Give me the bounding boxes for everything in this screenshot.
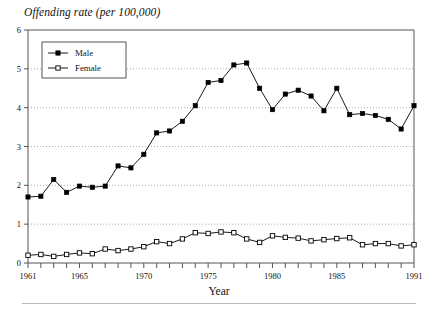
data-point-male-1965 [77,184,81,188]
data-point-female-1962 [39,252,43,256]
gridlines-group [28,69,414,224]
data-point-male-1976 [219,78,223,82]
x-axis-tick-labels: 1961196519701975198019851991 [20,271,423,281]
data-point-female-1977 [232,231,236,235]
footer-divider [22,303,416,304]
legend-marker-female [56,66,60,70]
data-point-male-1977 [232,63,236,67]
data-point-female-1990 [399,244,403,248]
data-point-female-1986 [347,236,351,240]
data-point-male-1982 [296,88,300,92]
data-point-male-1984 [322,109,326,113]
series-female [26,230,416,259]
data-point-female-1982 [296,236,300,240]
data-point-female-1988 [373,241,377,245]
data-point-male-1969 [129,166,133,170]
data-point-male-1973 [180,119,184,123]
x-tick-label-1980: 1980 [264,271,281,281]
data-point-male-1979 [258,86,262,90]
data-point-female-1971 [154,239,158,243]
series-line-female [28,232,414,256]
y-tick-label-0: 0 [17,258,21,268]
data-point-female-1984 [322,238,326,242]
x-axis-ticks [28,263,414,268]
x-tick-label-1965: 1965 [71,271,88,281]
data-point-female-1966 [90,251,94,255]
y-axis-tick-labels: 0123456 [17,25,22,268]
data-point-female-1973 [180,237,184,241]
data-point-female-1979 [257,240,261,244]
line-chart-plot-area: 0123456 1961196519701975198019851991 Mal… [0,0,438,300]
x-axis-title: Year [0,285,438,297]
data-point-female-1968 [116,248,120,252]
data-point-female-1965 [77,251,81,255]
data-point-female-1985 [335,236,339,240]
data-point-male-1962 [39,194,43,198]
data-point-male-1988 [373,113,377,117]
x-tick-label-1991: 1991 [406,271,423,281]
data-point-female-1978 [245,237,249,241]
data-point-male-1971 [155,131,159,135]
data-series-layer [26,61,416,259]
data-point-female-1987 [360,243,364,247]
data-point-female-1991 [412,243,416,247]
legend-marker-male [56,51,60,55]
chart-legend: MaleFemale [42,42,126,78]
data-point-male-1961 [26,195,30,199]
data-point-female-1964 [64,252,68,256]
chart-figure: Offending rate (per 100,000) 0123456 196… [0,0,438,312]
data-point-male-1991 [412,104,416,108]
data-point-female-1989 [386,241,390,245]
data-point-male-1974 [193,104,197,108]
data-point-male-1964 [65,190,69,194]
data-point-male-1970 [142,152,146,156]
data-point-male-1963 [52,177,56,181]
data-point-female-1961 [26,253,30,257]
y-tick-label-5: 5 [17,64,21,74]
legend-label-male: Male [75,48,93,58]
x-tick-label-1961: 1961 [20,271,37,281]
data-point-male-1981 [283,92,287,96]
data-point-male-1972 [167,129,171,133]
y-axis-ticks [24,30,28,263]
data-point-male-1967 [103,184,107,188]
y-tick-label-1: 1 [17,219,21,229]
data-point-female-1972 [167,241,171,245]
data-point-female-1970 [142,244,146,248]
data-point-male-1980 [270,108,274,112]
x-tick-label-1970: 1970 [135,271,152,281]
data-point-male-1968 [116,164,120,168]
series-male [26,61,416,199]
y-tick-label-6: 6 [17,25,21,35]
data-point-male-1983 [309,94,313,98]
data-point-male-1986 [348,113,352,117]
data-point-male-1987 [360,111,364,115]
data-point-male-1978 [245,61,249,65]
data-point-female-1983 [309,239,313,243]
x-tick-label-1975: 1975 [200,271,217,281]
data-point-male-1989 [386,117,390,121]
data-point-female-1967 [103,247,107,251]
y-tick-label-2: 2 [17,180,21,190]
series-line-male [28,63,414,197]
data-point-male-1985 [335,86,339,90]
data-point-female-1981 [283,235,287,239]
data-point-female-1976 [219,230,223,234]
data-point-female-1975 [206,231,210,235]
data-point-female-1974 [193,231,197,235]
data-point-female-1980 [270,234,274,238]
data-point-female-1969 [129,247,133,251]
chart-title: Offending rate (per 100,000) [24,6,160,18]
y-tick-label-4: 4 [17,103,22,113]
data-point-male-1975 [206,80,210,84]
y-tick-label-3: 3 [17,142,21,152]
x-tick-label-1985: 1985 [328,271,345,281]
data-point-male-1990 [399,127,403,131]
data-point-female-1963 [52,254,56,258]
data-point-male-1966 [90,185,94,189]
legend-label-female: Female [75,63,101,73]
